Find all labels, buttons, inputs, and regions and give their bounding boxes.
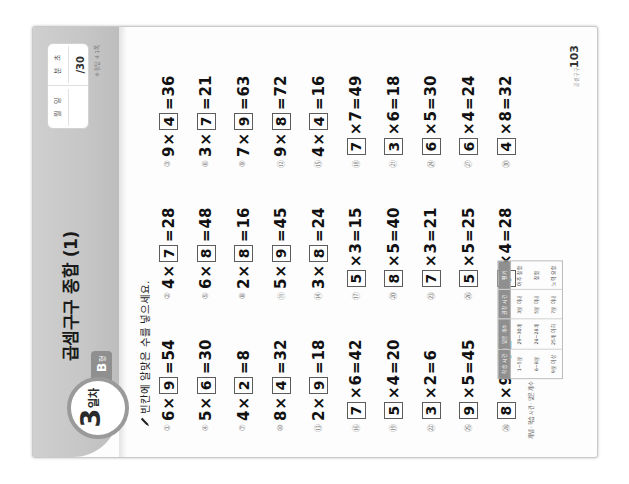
problem-item[interactable]: ⑫9×8=72 (271, 45, 290, 169)
problem-item[interactable]: ㉕9×5=45 (459, 309, 478, 433)
score-divider (68, 89, 69, 126)
evaluation-header: 맞은 개수 (498, 319, 510, 348)
problem-item[interactable]: ㉑3×6=18 (384, 45, 403, 169)
score-box[interactable]: 월 일 분 초 /30 (47, 43, 89, 129)
problem-item[interactable]: ⑨7×9=63 (234, 45, 253, 169)
problem-item[interactable]: ③9×4=36 (159, 45, 178, 169)
answer-blank[interactable]: 5 (384, 402, 403, 419)
answer-blank[interactable]: 2 (234, 377, 253, 394)
problem-item[interactable]: ④5×6=30 (196, 309, 215, 433)
multiply-sign: × (309, 397, 327, 410)
day-badge: 3일차 (67, 377, 129, 439)
operand-b: 6 (384, 111, 402, 121)
problem-item[interactable]: ⑳8×5=40 (384, 177, 403, 301)
answer-blank[interactable]: 9 (271, 245, 290, 262)
equals-sign: = (347, 361, 365, 374)
score-date-cell[interactable]: 월 일 (48, 86, 88, 129)
answer-blank[interactable]: 9 (459, 402, 478, 419)
evaluation-column: 맞은 개수29~30개26~28개25개 이하 (498, 318, 562, 348)
problem-item[interactable]: ⑪5×9=45 (271, 177, 290, 301)
operand-a: 2 (234, 279, 252, 289)
equals-sign: = (197, 229, 215, 242)
problem-item[interactable]: ⑤6×8=48 (196, 177, 215, 301)
problem-item[interactable]: ⑯7×6=42 (346, 309, 365, 433)
problem-number: ㉚ (499, 160, 510, 169)
problem-item[interactable]: ⑬2×9=18 (309, 309, 328, 433)
worksheet-page: 곱셈구구 종합 (1) 3일차 B 형 월 일 분 (32, 26, 598, 458)
equals-sign: = (159, 361, 177, 374)
evaluation-cell: 9분 이상 (544, 350, 561, 378)
answer-blank[interactable]: 5 (459, 270, 478, 287)
problem-number: ⑩ (275, 424, 284, 433)
answer-blank[interactable]: 3 (384, 138, 403, 155)
answer-blank[interactable]: 3 (421, 402, 440, 419)
multiply-sign: × (459, 122, 477, 135)
answer-blank[interactable]: 9 (159, 377, 178, 394)
answer-blank[interactable]: 9 (309, 377, 328, 394)
problem-number: ⑨ (238, 160, 247, 169)
answer-blank[interactable]: 4 (496, 138, 515, 155)
answer-blank[interactable]: 8 (384, 270, 403, 287)
problem-result: 28 (497, 208, 515, 229)
answer-blank[interactable]: 4 (309, 113, 328, 130)
problem-number: ㉑ (387, 160, 398, 169)
problem-result: 6 (422, 350, 440, 360)
evaluation-cell: 노력 요함 (544, 261, 561, 289)
problem-item[interactable]: ⑱7×7=49 (346, 45, 365, 169)
problem-item[interactable]: ㉔6×5=30 (421, 45, 440, 169)
problem-item[interactable]: ⑲5×4=20 (384, 309, 403, 433)
equals-sign: = (234, 229, 252, 242)
answer-blank[interactable]: 6 (421, 138, 440, 155)
operand-a: 2 (309, 411, 327, 421)
problem-item[interactable]: ⑩8×4=32 (271, 309, 290, 433)
answer-blank[interactable]: 8 (309, 245, 328, 262)
answer-blank[interactable]: 7 (421, 270, 440, 287)
multiply-sign: × (384, 386, 402, 399)
problem-item[interactable]: ⑭3×8=24 (309, 177, 328, 301)
multiply-sign: × (159, 265, 177, 278)
answer-blank[interactable]: 4 (271, 377, 290, 394)
multiply-sign: × (197, 397, 215, 410)
equals-sign: = (422, 361, 440, 374)
problem-item[interactable]: ⑮4×4=16 (309, 45, 328, 169)
problem-item[interactable]: ㉒3×2=6 (421, 309, 440, 433)
problem-number: ⑮ (312, 160, 323, 169)
answer-blank[interactable]: 7 (346, 402, 365, 419)
problem-item[interactable]: ⑧2×8=16 (234, 177, 253, 301)
multiply-sign: × (159, 133, 177, 146)
answer-blank[interactable]: 6 (196, 377, 215, 394)
evaluation-header: 권장 시간 (498, 290, 510, 318)
answer-blank[interactable]: 7 (346, 138, 365, 155)
evaluation-cell: 29~30개 (510, 319, 527, 348)
answer-blank[interactable]: 4 (159, 113, 178, 130)
problem-item[interactable]: ㉚4×8=32 (496, 45, 515, 169)
multiply-sign: × (422, 122, 440, 135)
problem-item[interactable]: ㉗6×4=24 (459, 45, 478, 169)
operand-a: 8 (272, 411, 290, 421)
answer-blank[interactable]: 5 (346, 270, 365, 287)
answer-blank[interactable]: 6 (459, 138, 478, 155)
problem-item[interactable]: ⑦4×2=8 (234, 309, 253, 433)
problem-result: 16 (234, 208, 252, 229)
problem-item[interactable]: ㉖5×5=25 (459, 177, 478, 301)
multiply-sign: × (459, 254, 477, 267)
operand-b: 6 (347, 375, 365, 385)
answer-blank[interactable]: 7 (196, 113, 215, 130)
score-time-cell[interactable]: 분 초 /30 (48, 44, 88, 86)
answer-blank[interactable]: 8 (234, 245, 253, 262)
problem-result: 8 (234, 350, 252, 360)
multiply-sign: × (347, 122, 365, 135)
problem-item[interactable]: ㉓7×3=21 (421, 177, 440, 301)
problem-result: 49 (347, 76, 365, 97)
answer-blank[interactable]: 8 (271, 113, 290, 130)
problem-item[interactable]: ①6×9=54 (159, 309, 178, 433)
answer-blank[interactable]: 7 (159, 245, 178, 262)
operand-a: 9 (159, 147, 177, 157)
problem-item[interactable]: ⑥3×7=21 (196, 45, 215, 169)
problem-item[interactable]: ②4×7=28 (159, 177, 178, 301)
problem-item[interactable]: ⑰5×3=15 (346, 177, 365, 301)
answer-blank[interactable]: 9 (234, 113, 253, 130)
answer-blank[interactable]: 8 (196, 245, 215, 262)
problem-result: 18 (384, 76, 402, 97)
operand-b: 8 (497, 111, 515, 121)
